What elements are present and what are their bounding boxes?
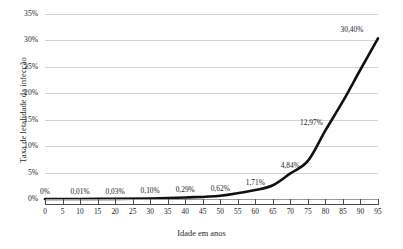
- x-axis-tick-label: 65: [269, 207, 276, 216]
- x-axis-tick-label: 50: [217, 207, 224, 216]
- x-axis-tickmark: [360, 199, 361, 205]
- x-axis-tick-label: 0: [43, 207, 47, 216]
- data-point-label: 12,97%: [300, 118, 323, 127]
- x-axis-baseline: [45, 204, 378, 205]
- x-axis-tick-label: 85: [339, 207, 346, 216]
- data-point-label: 1,71%: [246, 178, 265, 187]
- x-axis-tickmark: [325, 199, 326, 205]
- y-axis-tick-label: 15%: [12, 116, 38, 124]
- data-point-label: 0,03%: [106, 187, 125, 196]
- data-point-label: 0%: [40, 187, 50, 196]
- y-axis-tick-label: 25%: [12, 63, 38, 71]
- x-axis-tick-label: 15: [94, 207, 101, 216]
- x-axis-tick-label: 30: [146, 207, 153, 216]
- y-axis-tick-label: 30%: [12, 36, 38, 44]
- y-axis-tick-label: 5%: [12, 169, 38, 177]
- x-axis-tickmark: [220, 199, 221, 205]
- x-axis-tick-label: 60: [252, 207, 259, 216]
- x-axis-tickmark: [290, 199, 291, 205]
- data-point-label: 0,29%: [176, 185, 195, 194]
- x-axis-tick-label: 95: [374, 207, 381, 216]
- x-axis-tick-label: 35: [164, 207, 171, 216]
- x-axis-tick-label: 10: [76, 207, 83, 216]
- x-axis-tickmark: [80, 199, 81, 205]
- x-axis-tickmark: [45, 199, 46, 205]
- y-axis-tick-label: 10%: [12, 142, 38, 150]
- x-axis-tickmark: [378, 199, 379, 205]
- infection-fatality-rate-line: [45, 14, 378, 199]
- y-axis-tick-label: 0%: [12, 195, 38, 203]
- x-axis-tick-label: 5: [61, 207, 65, 216]
- x-axis-title: Idade em anos: [0, 229, 403, 238]
- y-axis-tick-labels: 0%5%10%15%20%25%30%35%: [6, 0, 38, 249]
- x-axis-tickmark: [203, 199, 204, 205]
- x-axis-tick-label: 70: [287, 207, 294, 216]
- x-axis-tickmark: [168, 199, 169, 205]
- x-axis-tick-label: 80: [322, 207, 329, 216]
- data-point-label: 30,40%: [341, 25, 364, 34]
- x-axis-tickmark: [115, 199, 116, 205]
- data-point-label: 0,01%: [71, 187, 90, 196]
- x-axis-tickmark: [98, 199, 99, 205]
- x-axis-tick-label: 40: [182, 207, 189, 216]
- y-axis-tick-label: 20%: [12, 89, 38, 97]
- x-axis-tickmark: [238, 199, 239, 205]
- data-point-label: 0,62%: [211, 184, 230, 193]
- data-point-label: 0,10%: [141, 186, 160, 195]
- x-axis-tick-label: 55: [234, 207, 241, 216]
- x-axis-tick-label: 90: [357, 207, 364, 216]
- x-axis-tickmark: [63, 199, 64, 205]
- y-axis-tick-label: 35%: [12, 10, 38, 18]
- data-point-label: 4,84%: [281, 161, 300, 170]
- x-axis-tickmark: [133, 199, 134, 205]
- x-axis-tickmark: [343, 199, 344, 205]
- x-axis-tick-label: 20: [111, 207, 118, 216]
- x-axis-tick-label: 25: [129, 207, 136, 216]
- x-axis-tickmarks: [45, 199, 378, 205]
- x-axis-tickmark: [185, 199, 186, 205]
- x-axis-tick-label: 45: [199, 207, 206, 216]
- x-axis-tick-label: 75: [304, 207, 311, 216]
- x-axis-tickmark: [150, 199, 151, 205]
- chart-container: Taxa de letalidade da infecção 0%5%10%15…: [0, 0, 403, 249]
- x-axis-tickmark: [255, 199, 256, 205]
- x-axis-tickmark: [273, 199, 274, 205]
- x-axis-tickmark: [308, 199, 309, 205]
